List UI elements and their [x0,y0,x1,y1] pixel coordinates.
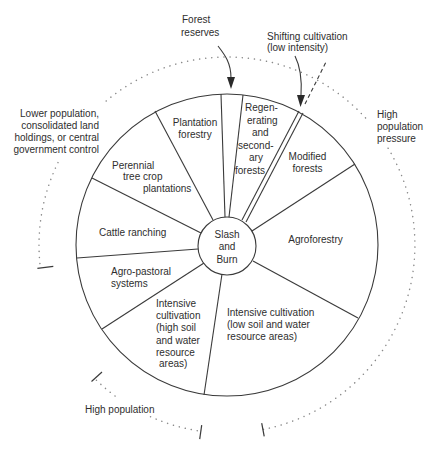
dotted-arc-left [39,163,58,268]
callout-line: Forest [182,14,211,25]
spoke-agropastoral-cattle [77,249,198,258]
spoke-plantation-reserves [221,94,225,217]
dotted-arc-top [106,57,367,119]
sector-label-line: cultivation [156,310,200,321]
dotted-arc-bottom-left-b [151,417,201,432]
arrow-shaft [295,56,301,95]
forest-reserves-arrow [218,46,235,89]
pressure-label-line: holdings, or central [15,132,100,143]
sector-label-line: and water [156,335,201,346]
sector-label-line: Cattle ranching [99,227,166,238]
sector-label-line: systems [111,278,148,289]
sector-label-line: (low soil and water [227,319,310,330]
land-use-wheel-diagram: Slash and Burn Plantation forestry Regen… [0,0,441,455]
shifting-cultivation-arrow [295,56,305,107]
pressure-label-line: High population [85,404,155,415]
sector-label-line: forestry [178,129,211,140]
sector-plantation-forestry: Plantation forestry [173,117,217,140]
sector-intensive-cultivation-high: Intensive cultivation (high soil and wat… [156,298,201,370]
sector-label-line: Plantation [173,117,217,128]
sector-label-line: forests [292,163,322,174]
spoke-intensive-low-high [204,274,222,395]
pressure-label-line: High [377,109,398,120]
callout-shifting-cultivation: Shifting cultivation (low intensity) [267,31,348,54]
sector-label-line: Agro-pastoral [111,266,171,277]
arrowhead-icon [227,77,235,89]
arrow-shaft [218,46,231,78]
pressure-label-line: consolidated land [21,120,99,131]
center-label-line: Burn [216,254,237,265]
dotted-arc-bottom-left-a [96,380,119,399]
arrowhead-icon [297,95,305,107]
sector-label-line: ary [249,152,263,163]
label-high-population-pressure: High population pressure [377,109,423,144]
sector-label-line: Intensive [156,298,196,309]
pressure-label-line: government control [13,144,99,155]
sector-modified-forests: Modified forests [289,151,327,174]
dotted-arc-right [263,148,415,429]
pressure-label-line: population [377,121,423,132]
sector-label-line: plantations [143,183,191,194]
center-label-line: and [219,241,236,252]
range-tick-left [37,266,53,268]
sector-label-line: resource areas) [227,331,297,342]
callout-line: Shifting cultivation [267,31,348,42]
sector-agroforestry: Agroforestry [288,234,342,245]
pressure-label-line: Lower population, [20,108,99,119]
sector-agro-pastoral: Agro-pastoral systems [111,266,171,289]
sector-label-line: Regen- [245,102,278,113]
sector-perennial-tree-crop: Perennial tree crop plantations [112,160,191,194]
center-label-line: Slash [214,229,239,240]
sector-intensive-cultivation-low: Intensive cultivation (low soil and wate… [227,307,314,342]
sector-label-line: and [252,127,269,138]
sector-label-line: resource [156,347,195,358]
spoke-modified-agroforestry [252,164,355,231]
sector-label-line: areas) [159,358,187,369]
sector-label-line: forests [235,165,265,176]
sector-label-line: erating [247,115,278,126]
callout-line: reserves [181,27,219,38]
pressure-label-line: pressure [377,133,416,144]
spoke-reserves-regenerating [229,95,243,217]
sector-label-line: (high soil [156,322,196,333]
callout-line: (low intensity) [267,42,328,53]
range-tick-bottom-left-end [200,425,202,439]
sector-label-line: Agroforestry [288,234,342,245]
label-high-population: High population [85,404,155,415]
label-lower-population: Lower population, consolidated land hold… [13,108,99,155]
sector-cattle-ranching: Cattle ranching [99,227,166,238]
sector-label-line: second- [238,140,274,151]
callout-forest-reserves: Forest reserves [181,14,219,38]
sector-label-line: Modified [289,151,327,162]
sector-label-line: Intensive cultivation [227,307,314,318]
sector-label-line: tree crop [123,171,163,182]
sector-label-line: Perennial [112,160,154,171]
